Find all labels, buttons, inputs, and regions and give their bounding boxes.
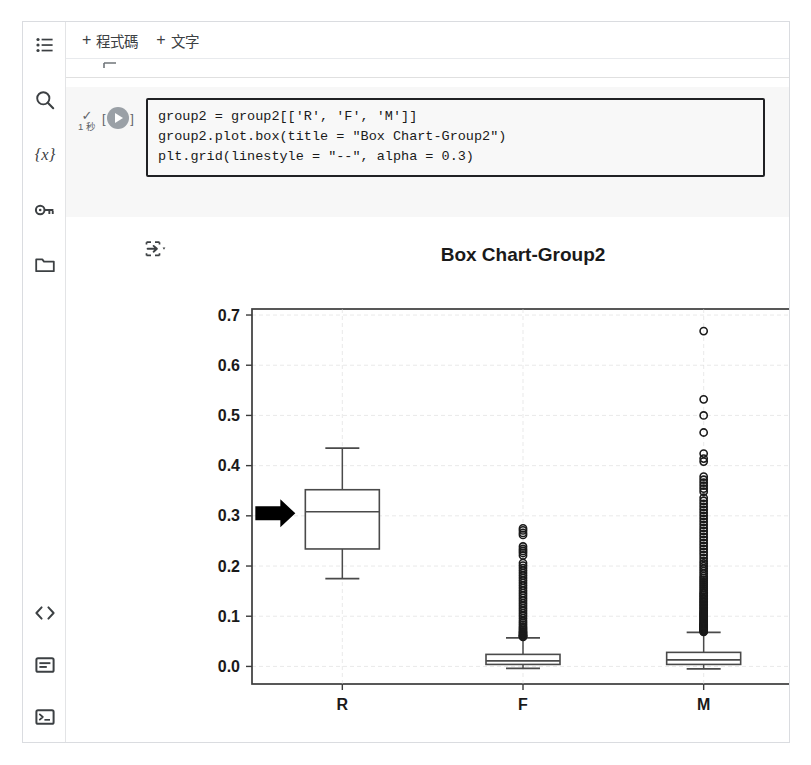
add-text-cell-label: 文字 <box>171 30 199 51</box>
box-F <box>486 525 560 669</box>
boxplot-svg: Box Chart-Group20.00.10.20.30.40.50.60.7… <box>122 237 789 737</box>
code-line: group2 = group2[['R', 'F', 'M']] <box>158 107 753 127</box>
cell-execution-status: ✓ 1 秒 <box>74 109 100 133</box>
x-tick-label: F <box>518 696 528 713</box>
add-text-cell-button[interactable]: + 文字 <box>156 30 198 51</box>
add-code-cell-label: 程式碼 <box>96 30 138 51</box>
y-tick-label: 0.6 <box>218 357 240 374</box>
box-R <box>305 448 379 579</box>
command-palette-icon[interactable] <box>30 650 60 680</box>
cell-divider <box>66 77 789 78</box>
code-snippets-icon[interactable] <box>30 598 60 628</box>
box-body <box>305 490 379 549</box>
cell-run-control[interactable]: [ ] <box>102 107 134 129</box>
y-tick-label: 0.3 <box>218 507 240 524</box>
run-cell-play-icon[interactable] <box>107 107 129 129</box>
chart-title: Box Chart-Group2 <box>441 244 606 265</box>
code-cell[interactable]: ✓ 1 秒 [ ] group2 = group2[['R', 'F', 'M'… <box>66 87 789 217</box>
rail-bottom-group <box>23 598 66 732</box>
svg-text:{x}: {x} <box>34 145 55 164</box>
add-code-cell-button[interactable]: + 程式碼 <box>82 30 138 51</box>
add-code-plus-icon: + <box>82 32 91 48</box>
code-line: group2.plot.box(title = "Box Chart-Group… <box>158 127 753 147</box>
x-tick-label: M <box>697 696 710 713</box>
secrets-key-icon[interactable] <box>30 195 60 225</box>
y-tick-label: 0.2 <box>218 558 240 575</box>
terminal-icon[interactable] <box>30 702 60 732</box>
y-tick-label: 0.0 <box>218 658 240 675</box>
add-text-plus-icon: + <box>156 32 165 48</box>
code-line: plt.grid(linestyle = "--", alpha = 0.3) <box>158 147 753 167</box>
code-editor[interactable]: group2 = group2[['R', 'F', 'M']] group2.… <box>146 98 765 177</box>
y-tick-label: 0.1 <box>218 608 240 625</box>
search-icon[interactable] <box>30 85 60 115</box>
left-icon-rail: {x} <box>23 22 66 742</box>
bracket-right: ] <box>130 111 134 126</box>
files-folder-icon[interactable] <box>30 250 60 280</box>
previous-cell-fragment <box>100 61 124 75</box>
y-tick-label: 0.5 <box>218 407 240 424</box>
table-of-contents-icon[interactable] <box>30 30 60 60</box>
bracket-left: [ <box>102 111 106 126</box>
variables-icon[interactable]: {x} <box>30 140 60 170</box>
box-body <box>667 652 741 664</box>
execution-duration-label: 1 秒 <box>78 122 96 133</box>
notebook-body: ✓ 1 秒 [ ] group2 = group2[['R', 'F', 'M'… <box>66 59 789 742</box>
y-tick-label: 0.4 <box>218 457 240 474</box>
rail-top-group: {x} <box>23 30 66 280</box>
x-tick-label: R <box>337 696 349 713</box>
box-body <box>486 654 560 664</box>
notebook-toolbar: + 程式碼 + 文字 <box>66 22 789 59</box>
notebook-window: {x} <box>22 21 790 743</box>
y-tick-label: 0.7 <box>218 307 240 324</box>
boxplot-chart-output: Box Chart-Group20.00.10.20.30.40.50.60.7… <box>122 237 789 737</box>
arrow-pointer-annotation <box>255 499 295 527</box>
